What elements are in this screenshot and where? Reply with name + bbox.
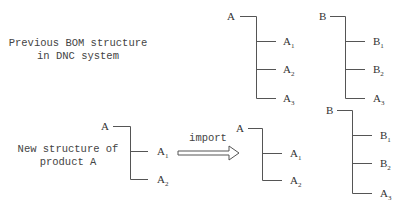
tree-node-label: A1 [290,147,302,162]
tree-root-label: B [319,10,326,22]
import-arrow: import [178,132,239,160]
tree-imported-b: B B1 B2 A3 [326,104,392,202]
tree-node-label: B2 [380,157,391,172]
double-arrow-icon [178,146,239,160]
tree-connector-lines [240,17,276,99]
tree-connector-lines [330,17,365,99]
previous-structure-caption: Previous BOM structure in DNC system [9,37,148,62]
previous-caption-line-1: Previous BOM structure [9,37,148,49]
tree-node-label: A2 [157,173,169,188]
tree-node-label: A3 [380,187,392,202]
tree-root-label: A [101,120,109,132]
tree-node-label: B2 [373,63,384,78]
tree-connector-lines [248,129,282,181]
tree-node-label: A1 [157,145,169,160]
tree-previous-a: A A1 A2 A3 [227,10,295,107]
tree-node-label: B1 [373,35,384,50]
tree-node-label: A2 [283,63,295,78]
tree-root-label: A [227,10,235,22]
tree-node-label: A3 [283,92,295,107]
previous-caption-line-2: in DNC system [37,50,119,62]
tree-node-label: A2 [290,174,302,189]
new-caption-line-2: product A [40,156,97,168]
tree-root-label: B [326,104,333,116]
tree-previous-b: B B1 B2 A3 [319,10,385,107]
tree-node-label: B1 [380,129,391,144]
new-structure-caption: New structure of product A [18,143,119,168]
tree-node-label: A3 [373,92,385,107]
tree-imported-a: A A1 A2 [236,122,302,189]
bom-diagram: Previous BOM structure in DNC system New… [0,0,411,209]
tree-root-label: A [236,122,244,134]
tree-node-label: A1 [283,35,295,50]
tree-connector-lines [337,111,372,194]
new-caption-line-1: New structure of [18,143,119,155]
import-label: import [189,132,227,144]
